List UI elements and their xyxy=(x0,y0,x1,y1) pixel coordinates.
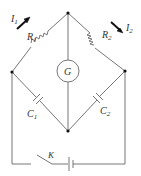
node-left xyxy=(10,70,13,73)
wire-r1-left xyxy=(12,47,31,72)
wire-top-right xyxy=(68,13,90,33)
label-g: G xyxy=(64,66,71,77)
node-bottom xyxy=(66,129,69,132)
wire-c1-a xyxy=(12,72,36,97)
node-top xyxy=(66,11,69,14)
wire-c2-b xyxy=(68,100,97,131)
node-right xyxy=(123,69,126,72)
label-i2: I2 xyxy=(125,22,133,35)
resistor-r2 xyxy=(87,33,94,45)
label-r2: R2 xyxy=(101,29,112,42)
battery xyxy=(69,157,73,171)
label-c1: C1 xyxy=(27,108,37,121)
circuit-diagram: I1 R1 R2 I2 G C1 C2 K xyxy=(0,0,141,176)
label-c2: C2 xyxy=(100,105,111,118)
wire-c1-b xyxy=(40,101,68,131)
label-i1: I1 xyxy=(10,13,18,26)
wire-c2-a xyxy=(100,71,125,96)
wire-r2-right xyxy=(95,48,125,71)
label-k: K xyxy=(47,150,55,160)
wire-top-left xyxy=(48,13,68,31)
